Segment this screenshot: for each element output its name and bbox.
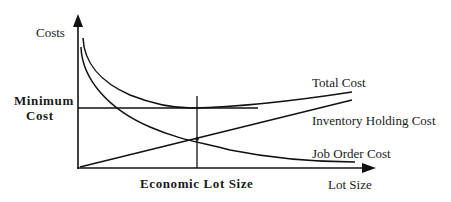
economic-lot-size-label: Economic Lot Size [140,176,253,191]
total-cost-curve [83,38,352,108]
y-axis-arrow-icon [73,14,83,27]
eoq-diagram: Costs Minimum Cost Economic Lot Size Lot… [0,0,451,202]
job-order-cost-curve [81,47,355,162]
minimum-cost-label-line1: Minimum [14,93,74,108]
job-order-cost-label: Job Order Cost [312,146,391,161]
total-cost-label: Total Cost [312,75,366,90]
inventory-holding-cost-label: Inventory Holding Cost [312,113,436,128]
intersection-point [195,137,199,141]
x-axis-arrow-icon [362,163,376,173]
x-axis-label: Lot Size [328,177,372,192]
y-axis-label: Costs [36,25,65,40]
minimum-cost-label-line2: Cost [26,108,54,123]
